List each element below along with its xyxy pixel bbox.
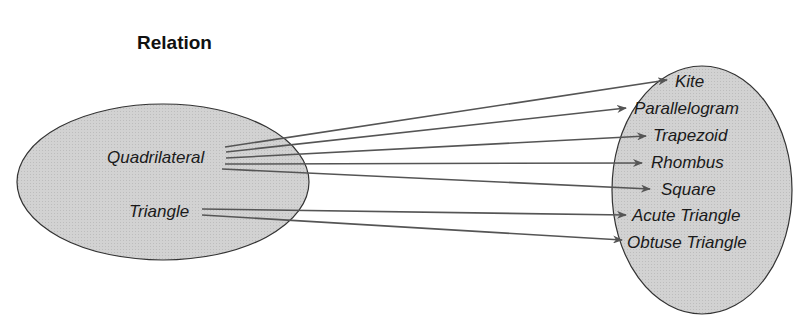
range-item-obtuse-triangle: Obtuse Triangle [627,233,747,253]
diagram-title: Relation [137,32,212,54]
domain-item-quadrilateral: Quadrilateral [107,148,204,168]
range-item-kite: Kite [675,72,704,92]
arrow-quadrilateral-rhombus [225,163,642,164]
range-item-square: Square [661,180,716,200]
range-item-acute-triangle: Acute Triangle [632,206,740,226]
domain-item-triangle: Triangle [129,202,189,222]
domain-ellipse [17,104,309,260]
range-item-parallelogram: Parallelogram [634,99,739,119]
range-item-rhombus: Rhombus [651,153,724,173]
arrow-quadrilateral-kite [225,80,667,147]
arrow-quadrilateral-parallelogram [226,108,626,152]
range-item-trapezoid: Trapezoid [653,126,727,146]
